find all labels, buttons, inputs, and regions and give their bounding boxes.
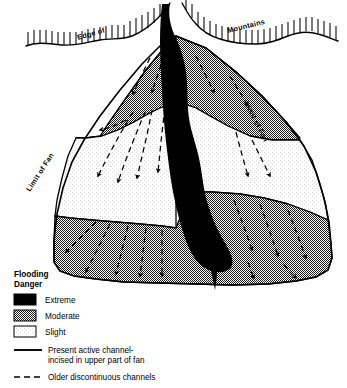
legend-label-older-discontinuous-channels: Older discontinuous channels	[48, 373, 155, 382]
alluvial-fan-diagram: Edge of Mountains Limit of Fan Limit of …	[0, 0, 347, 388]
legend-swatch-moderate[interactable]	[14, 310, 36, 321]
legend-title-line1: Flooding	[14, 270, 49, 279]
legend-label-present-active-channel-line2: incised in upper part of fan	[48, 356, 145, 365]
legend-label-present-active-channel-line1: Present active channel-	[48, 346, 134, 355]
legend-title-line2: Danger	[14, 280, 43, 289]
legend-label-extreme: Extreme	[45, 296, 76, 305]
legend-swatch-extreme[interactable]	[14, 294, 36, 305]
legend-label-slight: Slight	[45, 328, 66, 337]
legend-swatch-slight[interactable]	[14, 326, 36, 337]
legend-label-moderate: Moderate	[45, 312, 80, 321]
diagram-svg: Edge of Mountains Limit of Fan Limit of …	[0, 0, 347, 388]
